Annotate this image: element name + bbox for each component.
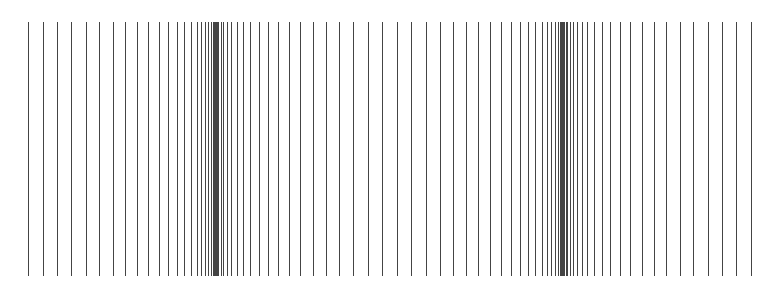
vertical-line — [426, 22, 427, 276]
vertical-line — [453, 22, 454, 276]
line-pattern-figure — [0, 0, 772, 292]
vertical-line — [28, 22, 29, 276]
vertical-line — [594, 22, 595, 276]
vertical-line — [148, 22, 149, 276]
vertical-line — [289, 22, 290, 276]
vertical-line — [736, 22, 737, 276]
vertical-line — [573, 22, 574, 276]
vertical-line — [259, 22, 260, 276]
vertical-line — [99, 22, 100, 276]
vertical-line — [278, 22, 279, 276]
vertical-line — [197, 22, 198, 276]
vertical-line — [43, 22, 44, 276]
vertical-line — [237, 22, 238, 276]
vertical-line — [666, 22, 667, 276]
vertical-line — [300, 22, 301, 276]
vertical-line — [268, 22, 269, 276]
vertical-line — [520, 22, 521, 276]
vertical-line — [680, 22, 681, 276]
vertical-line — [542, 22, 543, 276]
vertical-line — [555, 22, 556, 276]
vertical-line — [71, 22, 72, 276]
vertical-line — [620, 22, 621, 276]
vertical-line — [708, 22, 709, 276]
vertical-line — [501, 22, 502, 276]
vertical-line — [243, 22, 244, 276]
vertical-line — [168, 22, 169, 276]
vertical-line — [227, 22, 228, 276]
vertical-line — [205, 22, 206, 276]
vertical-line — [610, 22, 611, 276]
vertical-line — [201, 22, 202, 276]
vertical-line — [490, 22, 491, 276]
vertical-line — [86, 22, 87, 276]
vertical-line — [113, 22, 114, 276]
vertical-line — [313, 22, 314, 276]
vertical-line — [440, 22, 441, 276]
vertical-line — [57, 22, 58, 276]
vertical-line — [551, 22, 552, 276]
vertical-line — [326, 22, 327, 276]
vertical-line — [466, 22, 467, 276]
vertical-line — [397, 22, 398, 276]
vertical-line — [654, 22, 655, 276]
vertical-line — [547, 22, 548, 276]
vertical-line — [382, 22, 383, 276]
vertical-line — [642, 22, 643, 276]
vertical-line — [221, 22, 222, 276]
vertical-line — [223, 22, 224, 276]
vertical-line — [567, 22, 568, 276]
vertical-line — [218, 22, 219, 276]
vertical-line — [159, 22, 160, 276]
vertical-line — [535, 22, 536, 276]
vertical-line — [528, 22, 529, 276]
vertical-line — [722, 22, 723, 276]
vertical-line — [602, 22, 603, 276]
vertical-line — [558, 22, 559, 276]
vertical-line — [177, 22, 178, 276]
vertical-line — [339, 22, 340, 276]
vertical-line — [478, 22, 479, 276]
vertical-line — [191, 22, 192, 276]
vertical-line — [587, 22, 588, 276]
vertical-line — [353, 22, 354, 276]
vertical-line — [208, 22, 209, 276]
vertical-line — [137, 22, 138, 276]
vertical-line — [693, 22, 694, 276]
vertical-line — [577, 22, 578, 276]
vertical-line — [125, 22, 126, 276]
vertical-line — [582, 22, 583, 276]
vertical-line — [250, 22, 251, 276]
vertical-line — [184, 22, 185, 276]
vertical-line — [751, 22, 752, 276]
vertical-line — [630, 22, 631, 276]
vertical-line — [570, 22, 571, 276]
vertical-line — [411, 22, 412, 276]
vertical-line — [231, 22, 232, 276]
vertical-line — [368, 22, 369, 276]
vertical-line — [511, 22, 512, 276]
